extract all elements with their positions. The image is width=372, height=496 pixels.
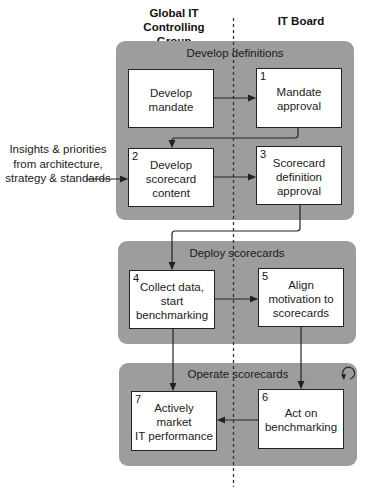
step-2-develop-scorecard-content[interactable]: 2 Develop scorecard content (128, 148, 214, 207)
step-1-mandate-approval[interactable]: 1 Mandate approval (256, 68, 342, 128)
external-input-note: Insights & priorities from architecture,… (2, 142, 114, 186)
phase-title: Operate scorecards (119, 368, 357, 380)
step-number: 5 (262, 269, 268, 283)
step-number: 2 (132, 149, 138, 163)
phase-title: Develop definitions (116, 47, 354, 59)
step-4-collect-data[interactable]: 4 Collect data, start benchmarking (129, 270, 215, 329)
step-label: Act on benchmarking (265, 404, 337, 434)
step-number: 7 (135, 392, 141, 406)
phase-title: Deploy scorecards (118, 247, 356, 259)
step-label: Actively market IT performance (135, 399, 213, 443)
lane-header-it-board: IT Board (266, 14, 336, 28)
step-label: Align motivation to scorecards (268, 276, 333, 320)
step-number: 1 (260, 69, 266, 83)
step-5-align-motivation[interactable]: 5 Align motivation to scorecards (258, 268, 344, 327)
step-label: Scorecard definition approval (273, 154, 325, 198)
step-number: 4 (133, 271, 139, 285)
step-label: Develop mandate (149, 84, 194, 114)
step-develop-mandate[interactable]: Develop mandate (128, 69, 214, 128)
step-7-actively-market[interactable]: 7 Actively market IT performance (131, 391, 217, 451)
step-label: Mandate approval (277, 83, 322, 113)
step-6-act-on-benchmarking[interactable]: 6 Act on benchmarking (258, 389, 344, 449)
step-label: Collect data, start benchmarking (136, 278, 208, 322)
step-3-scorecard-definition-approval[interactable]: 3 Scorecard definition approval (256, 146, 342, 205)
step-number: 6 (262, 390, 268, 404)
step-label: Develop scorecard content (146, 156, 197, 200)
step-number: 3 (260, 147, 266, 161)
